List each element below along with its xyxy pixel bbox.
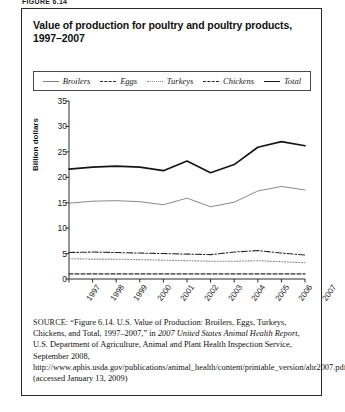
y-tick-25: 25 [58, 147, 67, 157]
x-tick-2005: 2005 [273, 283, 291, 303]
x-tick-2000: 2000 [155, 283, 173, 303]
y-axis-label: Billion dollars [31, 118, 40, 171]
legend-swatch-turkeys-icon [147, 78, 163, 85]
x-tick-2006: 2006 [297, 283, 315, 303]
legend-item-turkeys[interactable]: Turkeys [147, 76, 193, 86]
legend-label-broilers: Broilers [63, 76, 91, 86]
y-tick-30: 30 [58, 121, 67, 131]
figure-card: Value of production for poultry and poul… [21, 8, 322, 396]
line-chart-svg [33, 97, 311, 309]
series-line-total [69, 142, 305, 173]
source-italic1: 2007 United States Animal Health Report [158, 329, 298, 338]
legend-label-turkeys: Turkeys [167, 76, 193, 86]
chart-plot-area: Billion dollars 05101520253035 199719981… [33, 97, 311, 309]
series-line-broilers [69, 186, 305, 206]
legend-swatch-eggs-icon [100, 78, 116, 85]
x-tick-1997: 1997 [85, 283, 103, 303]
x-tick-2007: 2007 [321, 283, 339, 303]
x-tick-2003: 2003 [226, 283, 244, 303]
legend-item-total[interactable]: Total [264, 76, 301, 86]
y-axis-ticks: 05101520253035 [45, 97, 67, 275]
x-tick-2004: 2004 [250, 283, 268, 303]
source-note: SOURCE: “Figure 6.14. U.S. Value of Prod… [33, 317, 313, 384]
source-prefix: SOURCE: [33, 318, 68, 327]
legend-swatch-total-icon [264, 78, 280, 85]
x-tick-1999: 1999 [132, 283, 150, 303]
x-tick-2001: 2001 [179, 283, 197, 303]
series-line-turkeys [69, 259, 305, 263]
y-tick-35: 35 [58, 96, 67, 106]
y-tick-20: 20 [58, 172, 67, 182]
series-line-eggs [69, 251, 305, 256]
y-tick-15: 15 [58, 198, 67, 208]
x-axis-ticks: 1997199819992000200120022003200420052006… [69, 283, 309, 313]
figure-number: FIGURE 6.14 [22, 0, 67, 5]
x-tick-1998: 1998 [108, 283, 126, 303]
legend-item-chickens[interactable]: Chickens [203, 76, 254, 86]
y-tick-5: 5 [62, 249, 67, 259]
legend-item-broilers[interactable]: Broilers [43, 76, 91, 86]
legend-swatch-chickens-icon [203, 78, 219, 85]
page-title: Value of production for poultry and poul… [33, 19, 308, 45]
legend-label-chickens: Chickens [223, 76, 254, 86]
chart-legend: Broilers Eggs Turkeys Chickens Total [33, 71, 311, 91]
y-tick-10: 10 [58, 223, 67, 233]
legend-item-eggs[interactable]: Eggs [100, 76, 137, 86]
legend-label-eggs: Eggs [120, 76, 137, 86]
legend-swatch-broilers-icon [43, 78, 59, 85]
y-tick-0: 0 [62, 274, 67, 284]
x-tick-2002: 2002 [203, 283, 221, 303]
legend-label-total: Total [284, 76, 301, 86]
